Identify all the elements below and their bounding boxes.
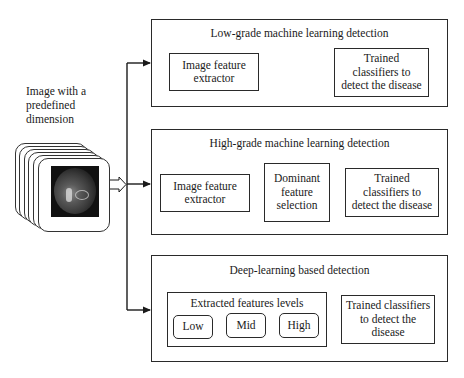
box-text: Trained bbox=[341, 52, 421, 66]
box-text: classifiers to bbox=[341, 66, 421, 80]
image-card-front bbox=[38, 158, 110, 232]
box-text: detect the disease bbox=[341, 79, 421, 93]
image-feature-extractor-box: Image feature extractor bbox=[169, 53, 259, 91]
box-text: disease bbox=[346, 326, 430, 340]
level-low-box: Low bbox=[173, 315, 213, 339]
box-text: extractor bbox=[173, 193, 237, 207]
box-text: Image feature bbox=[173, 180, 237, 194]
image-feature-extractor-box: Image feature extractor bbox=[160, 174, 250, 212]
box-text: extractor bbox=[182, 72, 246, 86]
box-text: Trained classifiers bbox=[346, 299, 430, 313]
box-text: Mid bbox=[236, 319, 255, 333]
trained-classifier-box: Trained classifiers to detect the diseas… bbox=[341, 295, 435, 344]
group-title: Extracted features levels bbox=[168, 297, 326, 309]
panel-title: High-grade machine learning detection bbox=[152, 137, 447, 149]
caption-line: predefined bbox=[26, 98, 86, 112]
box-text: High bbox=[288, 319, 311, 333]
input-caption: Image with a predefined dimension bbox=[26, 84, 86, 126]
box-text: Image feature bbox=[182, 59, 246, 73]
box-text: classifiers to bbox=[352, 186, 432, 200]
trained-classifier-box: Trained classifiers to detect the diseas… bbox=[334, 48, 429, 97]
level-mid-box: Mid bbox=[226, 313, 266, 338]
fundus-image-icon bbox=[51, 166, 99, 217]
panel-title: Deep-learning based detection bbox=[152, 264, 447, 276]
box-text: selection bbox=[274, 199, 320, 213]
box-text: Dominant bbox=[274, 172, 320, 186]
caption-line: dimension bbox=[26, 112, 86, 126]
box-text: detect the disease bbox=[352, 199, 432, 213]
box-text: Low bbox=[182, 320, 203, 334]
level-high-box: High bbox=[279, 313, 319, 338]
box-text: feature bbox=[274, 186, 320, 200]
caption-line: Image with a bbox=[26, 84, 86, 98]
box-text: to detect the bbox=[346, 313, 430, 327]
dominant-feature-selection-box: Dominant feature selection bbox=[264, 163, 330, 222]
trained-classifier-box: Trained classifiers to detect the diseas… bbox=[345, 168, 439, 217]
box-text: Trained bbox=[352, 172, 432, 186]
panel-title: Low-grade machine learning detection bbox=[152, 27, 447, 39]
